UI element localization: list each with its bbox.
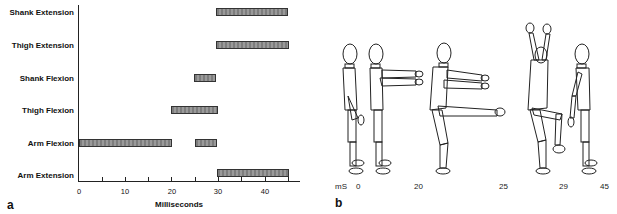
minor-tick	[288, 177, 289, 182]
bar-shank-extension	[216, 8, 288, 16]
time-label-20: 20	[414, 182, 423, 191]
time-label-29: 29	[559, 182, 568, 191]
minor-tick	[148, 177, 149, 182]
x-tick-label: 0	[77, 187, 81, 196]
x-axis-title: Milliseconds	[155, 200, 203, 209]
bar-arm-flexion-2	[195, 139, 217, 147]
time-label-25: 25	[499, 182, 508, 191]
major-tick	[265, 177, 266, 182]
row-label-shank-flexion: Shank Flexion	[20, 74, 74, 83]
figure-25ms	[430, 43, 505, 174]
bar-arm-flexion-1	[79, 139, 172, 147]
bar-arm-extension	[217, 169, 289, 177]
figure-45ms	[568, 44, 597, 174]
time-label-0: 0	[356, 182, 360, 191]
panel-label-a: a	[7, 198, 14, 212]
row-label-arm-extension: Arm Extension	[18, 171, 74, 180]
bar-thigh-flexion	[171, 106, 218, 114]
figure-sequence: mS 0 20 25 29 45 b	[300, 0, 617, 214]
bar-thigh-extension	[216, 41, 289, 49]
x-tick-label: 40	[261, 187, 269, 196]
major-tick	[218, 177, 219, 182]
x-tick-label: 20	[168, 187, 176, 196]
figure-29ms	[526, 23, 565, 174]
minor-tick	[195, 177, 196, 182]
bar-shank-flexion	[194, 74, 216, 82]
time-label-45: 45	[600, 182, 609, 191]
y-axis	[78, 5, 79, 182]
figure-20ms	[369, 44, 423, 174]
panel-label-b: b	[335, 196, 342, 210]
row-label-shank-extension: Shank Extension	[10, 8, 74, 17]
minor-tick	[241, 177, 242, 182]
figure-0ms	[343, 44, 364, 174]
row-label-arm-flexion: Arm Flexion	[28, 139, 74, 148]
x-tick-label: 10	[121, 187, 129, 196]
gantt-chart: Shank Extension Thigh Extension Shank Fl…	[0, 0, 300, 214]
time-unit-label: mS	[335, 182, 347, 191]
x-axis	[78, 181, 300, 182]
major-tick	[171, 177, 172, 182]
x-tick-label: 30	[214, 187, 222, 196]
row-label-thigh-flexion: Thigh Flexion	[22, 106, 74, 115]
minor-tick	[102, 177, 103, 182]
row-label-thigh-extension: Thigh Extension	[12, 41, 74, 50]
stick-figures-illustration	[300, 0, 617, 214]
major-tick	[125, 177, 126, 182]
